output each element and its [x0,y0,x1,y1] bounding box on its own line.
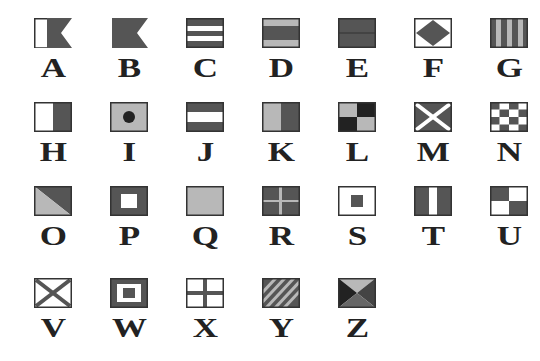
flag-letter: P [93,220,168,252]
flag-cell-n: N [480,102,540,182]
signal-flag-p-icon [110,186,148,216]
signal-flag-t-icon [414,186,452,216]
flag-letter: D [245,52,320,84]
flag-cell-r: R [252,186,312,266]
flag-letter: N [473,136,540,168]
flag-letter: T [397,220,472,252]
flag-cell-h: H [24,102,84,182]
signal-flag-c-icon [186,18,224,48]
flag-cell-v: V [24,278,84,358]
flag-letter: A [17,52,92,84]
signal-flag-o-icon [34,186,72,216]
flag-letter: W [93,312,168,344]
flag-cell-u: U [480,186,540,266]
flag-letter: Z [321,312,396,344]
flag-cell-i: I [100,102,160,182]
flag-letter: L [321,136,396,168]
flag-cell-k: K [252,102,312,182]
signal-flag-k-icon [262,102,300,132]
signal-flag-j-icon [186,102,224,132]
flag-cell-g: G [480,18,540,98]
flag-letter: V [17,312,92,344]
flag-cell-b: B [100,18,160,98]
signal-flag-h-icon [34,102,72,132]
flag-cell-z: Z [328,278,388,358]
flag-cell-w: W [100,278,160,358]
signal-flag-x-icon [186,278,224,308]
signal-flag-s-icon [338,186,376,216]
flag-cell-c: C [176,18,236,98]
flag-cell-q: Q [176,186,236,266]
flag-cell-f: F [404,18,464,98]
flag-cell-l: L [328,102,388,182]
flag-cell-y: Y [252,278,312,358]
signal-flag-g-icon [490,18,528,48]
flag-cell-d: D [252,18,312,98]
flag-cell-e: E [328,18,388,98]
signal-flag-i-icon [110,102,148,132]
flag-letter: M [397,136,472,168]
signal-flag-r-icon [262,186,300,216]
signal-flag-v-icon [34,278,72,308]
flag-letter: J [169,136,244,168]
signal-flag-m-icon [414,102,452,132]
signal-flag-a-icon [34,18,72,48]
signal-flag-z-icon [338,278,376,308]
flag-letter: F [397,52,472,84]
flag-letter: H [17,136,92,168]
flag-letter: C [169,52,244,84]
flag-cell-s: S [328,186,388,266]
signal-flag-w-icon [110,278,148,308]
signal-flag-f-icon [414,18,452,48]
flag-letter: Y [245,312,320,344]
flag-letter: E [321,52,396,84]
signal-flag-q-icon [186,186,224,216]
flag-letter: B [93,52,168,84]
flag-cell-j: J [176,102,236,182]
signal-flag-b-icon [110,18,148,48]
flag-letter: R [245,220,320,252]
flag-letter: S [321,220,396,252]
signal-flag-e-icon [338,18,376,48]
signal-flag-n-icon [490,102,528,132]
flag-letter: G [473,52,540,84]
flag-cell-o: O [24,186,84,266]
flag-letter: O [17,220,92,252]
flag-letter: K [245,136,320,168]
signal-flag-d-icon [262,18,300,48]
signal-flag-y-icon [262,278,300,308]
flag-cell-p: P [100,186,160,266]
flag-letter: Q [169,220,244,252]
flag-cell-x: X [176,278,236,358]
flag-letter: U [473,220,540,252]
signal-flag-l-icon [338,102,376,132]
flag-letter: X [169,312,244,344]
flag-cell-m: M [404,102,464,182]
signal-flag-u-icon [490,186,528,216]
flag-letter: I [93,136,168,168]
flag-cell-t: T [404,186,464,266]
flag-cell-a: A [24,18,84,98]
